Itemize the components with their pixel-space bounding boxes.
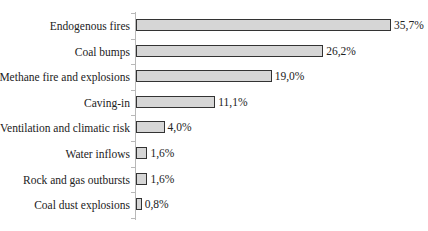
category-label: Coal dust explosions [34,195,130,215]
axis-tick [131,39,135,40]
category-label: Water inflows [65,144,130,164]
bar-row: Ventilation and climatic risk4,0% [0,118,428,138]
value-label: 26,2% [326,42,356,62]
axis-tick [131,64,135,65]
value-label: 0,8% [145,195,169,215]
value-label: 4,0% [168,118,192,138]
category-label: Endogenous fires [50,16,130,36]
category-label: Methane fire and explosions [0,67,130,87]
bar [136,70,272,82]
value-label: 19,0% [275,67,305,87]
axis-tick [131,90,135,91]
bar-row: Caving-in11,1% [0,93,428,113]
value-label: 1,6% [150,170,174,190]
category-label: Ventilation and climatic risk [0,118,130,138]
bar [136,19,391,31]
bar-row: Water inflows1,6% [0,144,428,164]
bar-row: Endogenous fires35,7% [0,16,428,36]
axis-tick [131,218,135,219]
value-label: 1,6% [150,144,174,164]
bar [136,96,215,108]
category-label: Coal bumps [75,42,130,62]
category-label: Rock and gas outbursts [23,170,130,190]
axis-tick [131,13,135,14]
bar-row: Methane fire and explosions19,0% [0,67,428,87]
value-label: 11,1% [218,93,247,113]
axis-tick [131,141,135,142]
axis-tick [131,192,135,193]
bar [136,173,147,185]
bar-row: Coal bumps26,2% [0,42,428,62]
axis-tick [131,167,135,168]
bar [136,121,165,133]
bar [136,147,147,159]
axis-tick [131,115,135,116]
value-label: 35,7% [394,16,424,36]
horizontal-bar-chart: Endogenous fires35,7%Coal bumps26,2%Meth… [0,0,428,231]
bar-row: Coal dust explosions0,8% [0,195,428,215]
bar [136,198,142,210]
bar-row: Rock and gas outbursts1,6% [0,170,428,190]
bar [136,45,323,57]
category-label: Caving-in [84,93,130,113]
